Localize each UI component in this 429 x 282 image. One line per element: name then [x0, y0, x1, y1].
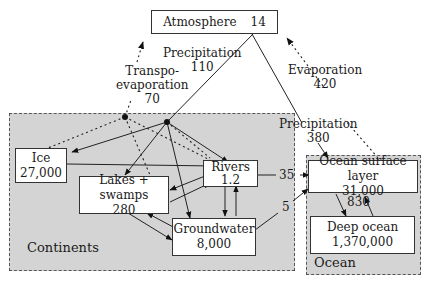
ice-name: Ice [32, 151, 51, 166]
groundwater-name: Groundwater [174, 222, 255, 237]
ocean-surface-box: Ocean surface layer 31,000 [308, 160, 418, 193]
atmosphere-name: Atmosphere [163, 15, 236, 30]
atmosphere-value: 14 [251, 15, 266, 30]
ice-box: Ice 27,000 [15, 148, 67, 183]
lakes-swamps-box: Lakes + swamps 280 [79, 176, 169, 214]
deep-ocean-value: 1,370,000 [332, 235, 393, 250]
rivers-name: Rivers [211, 161, 250, 174]
groundwater-to-ocean-label: 5 [282, 200, 290, 214]
precip-ocean-label: Precipitation 380 [279, 117, 358, 145]
ocean-surface-name: Ocean surface layer [309, 154, 417, 184]
rivers-value: 1.2 [221, 174, 240, 187]
deep-ocean-box: Deep ocean 1,370,000 [310, 216, 415, 254]
atmosphere-box: Atmosphere 14 [151, 10, 278, 34]
rivers-to-ocean-label: 35 [279, 168, 294, 182]
groundwater-box: Groundwater 8,000 [172, 218, 256, 256]
ice-value: 27,000 [20, 166, 62, 181]
rivers-box: Rivers 1.2 [203, 160, 258, 187]
ocean-exchange-label: 830 [347, 195, 370, 209]
lakes-name: Lakes + swamps [80, 173, 168, 203]
transpo-label: Transpo- evaporation 70 [116, 64, 188, 106]
groundwater-value: 8,000 [197, 237, 231, 252]
lakes-value: 280 [113, 203, 136, 218]
evap-ocean-label: Evaporation 420 [288, 63, 362, 91]
deep-ocean-name: Deep ocean [327, 220, 398, 235]
